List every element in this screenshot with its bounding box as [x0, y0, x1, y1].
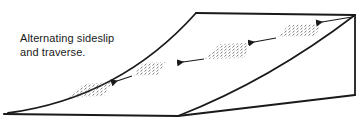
traverse-arrow-3	[183, 59, 204, 62]
ground-line	[4, 114, 178, 116]
slope-profile-curve	[8, 13, 196, 113]
top-ridge	[196, 13, 355, 15]
traverse-arrow-2	[254, 38, 276, 42]
inner-curve	[178, 15, 355, 116]
sideslip-patch-2	[205, 43, 250, 59]
sideslip-patch-4	[66, 82, 112, 98]
slope-diagram	[0, 0, 363, 122]
sideslip-patch-1	[277, 24, 320, 37]
